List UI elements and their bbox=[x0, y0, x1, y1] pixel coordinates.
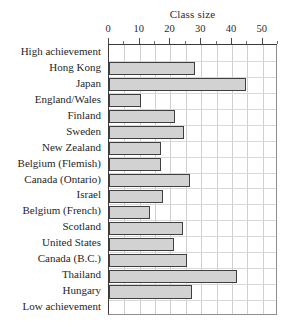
category-label: England/Wales bbox=[35, 92, 101, 108]
x-axis-tick-major bbox=[108, 38, 109, 44]
category-label: Israel bbox=[77, 187, 101, 203]
gridline-horizontal bbox=[109, 284, 276, 285]
x-axis-tick-minor bbox=[154, 41, 155, 44]
category-label: Canada (Ontario) bbox=[24, 172, 101, 188]
x-axis-tick-major bbox=[262, 38, 263, 44]
x-axis-line bbox=[108, 44, 277, 45]
x-axis-tick-major bbox=[169, 38, 170, 44]
gridline-vertical bbox=[263, 45, 264, 314]
category-label: Japan bbox=[76, 76, 101, 92]
x-axis-tick-label: 30 bbox=[195, 23, 206, 34]
x-axis-tick-label: 10 bbox=[133, 23, 144, 34]
bar bbox=[109, 142, 161, 155]
category-label: Scotland bbox=[63, 219, 102, 235]
category-label: Hungary bbox=[63, 283, 102, 299]
x-axis-tick-major bbox=[200, 38, 201, 44]
category-label: United States bbox=[42, 235, 101, 251]
gridline-horizontal bbox=[109, 141, 276, 142]
bar bbox=[109, 238, 174, 251]
gridline-horizontal bbox=[109, 188, 276, 189]
bar bbox=[109, 94, 141, 107]
gridline-horizontal bbox=[109, 109, 276, 110]
x-axis-tick-label: 0 bbox=[105, 23, 110, 34]
gridline-horizontal bbox=[109, 157, 276, 158]
gridline-horizontal bbox=[109, 77, 276, 78]
x-axis-tick-minor bbox=[277, 41, 278, 44]
bar-chart-figure: Class size 01020304050 High achievementH… bbox=[0, 0, 291, 327]
category-label: High achievement bbox=[21, 44, 101, 60]
bar bbox=[109, 78, 246, 91]
x-axis-tick-major bbox=[231, 38, 232, 44]
category-label: Canada (B.C.) bbox=[38, 251, 101, 267]
x-axis-tick-label: 50 bbox=[256, 23, 267, 34]
category-label: Low achievement bbox=[23, 299, 102, 315]
x-axis-tick-minor bbox=[246, 41, 247, 44]
x-axis-tick-minor bbox=[185, 41, 186, 44]
category-label: Belgium (Flemish) bbox=[18, 156, 101, 172]
category-label: Thailand bbox=[62, 267, 101, 283]
x-axis-tick-major bbox=[139, 38, 140, 44]
bar bbox=[109, 62, 195, 75]
category-label: Sweden bbox=[66, 124, 101, 140]
x-axis-tick-label: 40 bbox=[226, 23, 237, 34]
category-label: Hong Kong bbox=[49, 60, 101, 76]
gridline-horizontal bbox=[109, 300, 276, 301]
chart-title: Class size bbox=[108, 8, 277, 20]
bar bbox=[109, 254, 187, 267]
bar bbox=[109, 174, 190, 187]
gridline-horizontal bbox=[109, 125, 276, 126]
bar bbox=[109, 206, 150, 219]
bar bbox=[109, 190, 163, 203]
gridline-horizontal bbox=[109, 236, 276, 237]
gridline-horizontal bbox=[109, 204, 276, 205]
bar bbox=[109, 110, 175, 123]
y-axis-category-labels: High achievementHong KongJapanEngland/Wa… bbox=[0, 44, 104, 315]
x-axis-tick-labels: 01020304050 bbox=[0, 23, 291, 36]
category-label: New Zealand bbox=[42, 140, 101, 156]
x-axis-tick-minor bbox=[123, 41, 124, 44]
bar bbox=[109, 126, 184, 139]
plot-area bbox=[108, 44, 277, 315]
gridline-horizontal bbox=[109, 220, 276, 221]
gridline-vertical bbox=[247, 45, 248, 314]
bar bbox=[109, 270, 237, 283]
gridline-horizontal bbox=[109, 268, 276, 269]
gridline-horizontal bbox=[109, 252, 276, 253]
gridline-horizontal bbox=[109, 93, 276, 94]
x-axis-tick-minor bbox=[216, 41, 217, 44]
x-axis-tick-label: 20 bbox=[164, 23, 175, 34]
category-label: Belgium (French) bbox=[22, 203, 101, 219]
gridline-horizontal bbox=[109, 61, 276, 62]
bar bbox=[109, 222, 183, 235]
bar bbox=[109, 158, 161, 171]
bar bbox=[109, 285, 192, 298]
gridline-horizontal bbox=[109, 173, 276, 174]
category-label: Finland bbox=[67, 108, 101, 124]
